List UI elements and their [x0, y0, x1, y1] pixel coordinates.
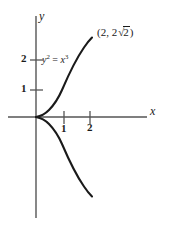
square-root-icon: √2	[117, 26, 130, 38]
figure-semicubical-parabola: y x 2 1 1 2 y2 = x3 (2, 2√2)	[0, 0, 169, 227]
point-close-paren: )	[130, 26, 134, 38]
y-axis-label: y	[39, 10, 44, 22]
radicand: 2	[123, 26, 130, 38]
plot-canvas	[0, 0, 169, 227]
x-axis-label: x	[150, 105, 155, 117]
point-x-value: 2,	[101, 26, 112, 38]
x-tick-label-2: 2	[87, 122, 93, 133]
y-tick-label-2: 2	[21, 53, 27, 64]
equation-operator: =	[50, 54, 61, 65]
y-tick-label-1: 1	[21, 83, 27, 94]
equation-annotation: y2 = x3	[42, 54, 68, 65]
equation-rhs-exponent: 3	[65, 53, 68, 60]
point-annotation: (2, 2√2)	[97, 26, 133, 38]
x-tick-label-1: 1	[61, 123, 67, 134]
curve-upper-branch	[36, 38, 92, 118]
